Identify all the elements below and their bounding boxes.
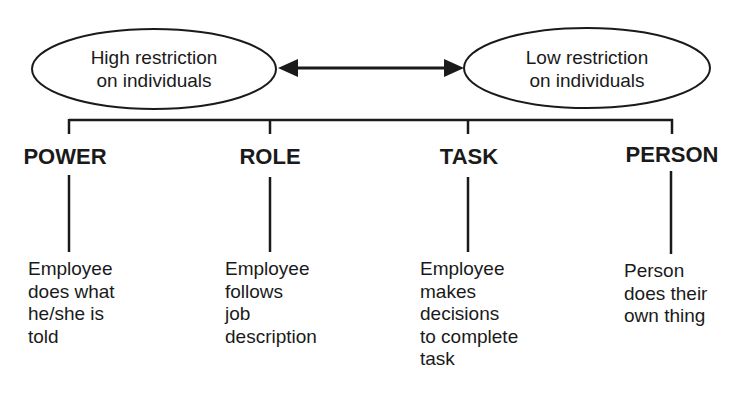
high-restriction-label: High restriction on individuals bbox=[54, 46, 254, 92]
description-line: Employee bbox=[420, 258, 518, 281]
description-line: he/she is bbox=[28, 303, 115, 326]
description-line: description bbox=[225, 326, 317, 349]
high-restriction-line2: on individuals bbox=[54, 69, 254, 92]
description-line: task bbox=[420, 348, 518, 371]
description-line: job bbox=[225, 303, 317, 326]
description-line: own thing bbox=[624, 305, 707, 328]
description-line: follows bbox=[225, 281, 317, 304]
description-line: decisions bbox=[420, 303, 518, 326]
task-description: Employee makes decisions to complete tas… bbox=[420, 258, 518, 371]
connector-lines bbox=[69, 171, 671, 254]
description-line: to complete bbox=[420, 326, 518, 349]
power-culture-label: POWER bbox=[23, 145, 106, 169]
description-line: Employee bbox=[28, 258, 115, 281]
role-description: Employee follows job description bbox=[225, 258, 317, 348]
task-culture-label: TASK bbox=[440, 145, 498, 169]
description-line: does their bbox=[624, 283, 707, 306]
description-line: does what bbox=[28, 281, 115, 304]
role-culture-label: ROLE bbox=[239, 145, 300, 169]
description-line: Person bbox=[624, 260, 707, 283]
low-restriction-line2: on individuals bbox=[487, 69, 687, 92]
high-restriction-line1: High restriction bbox=[54, 46, 254, 69]
power-description: Employee does what he/she is told bbox=[28, 258, 115, 348]
low-restriction-line1: Low restriction bbox=[487, 46, 687, 69]
person-description: Person does their own thing bbox=[624, 260, 707, 328]
person-culture-label: PERSON bbox=[626, 143, 719, 167]
description-line: Employee bbox=[225, 258, 317, 281]
low-restriction-label: Low restriction on individuals bbox=[487, 46, 687, 92]
double-arrow-icon bbox=[278, 59, 464, 77]
description-line: told bbox=[28, 326, 115, 349]
description-line: makes bbox=[420, 281, 518, 304]
bracket bbox=[69, 119, 673, 134]
